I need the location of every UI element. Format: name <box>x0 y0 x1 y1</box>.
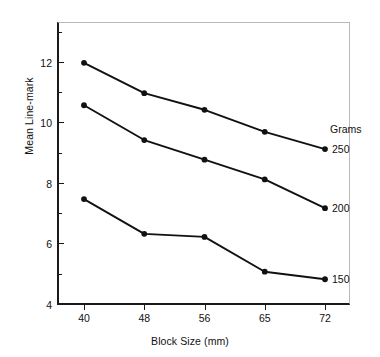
y-tick-minor <box>57 92 62 93</box>
y-tick-major <box>57 122 64 123</box>
legend-entry-250: 250 <box>332 144 350 155</box>
y-tick-major <box>57 62 64 63</box>
legend-title: Grams <box>330 124 362 135</box>
y-axis-title: Mean Line-mark <box>23 56 35 176</box>
y-tick-minor <box>57 213 62 214</box>
y-tick-label: 4 <box>26 300 52 311</box>
x-tick-label: 72 <box>305 313 345 324</box>
x-tick <box>84 303 85 310</box>
y-tick-label: 8 <box>26 179 52 190</box>
x-tick <box>265 303 266 310</box>
y-tick-minor <box>57 274 62 275</box>
x-tick <box>205 303 206 310</box>
line-chart-figure: 4681012 4048566572 Grams250200150 Block … <box>0 0 380 357</box>
x-tick-label: 65 <box>245 313 285 324</box>
legend-entry-150: 150 <box>332 274 350 285</box>
legend-entry-200: 200 <box>332 203 350 214</box>
y-tick-minor <box>57 153 62 154</box>
x-tick <box>144 303 145 310</box>
plot-area-frame <box>57 22 350 305</box>
y-tick-major <box>57 183 64 184</box>
x-tick-label: 48 <box>124 313 164 324</box>
y-tick-major <box>57 243 64 244</box>
x-tick-label: 40 <box>64 313 104 324</box>
y-tick-minor <box>57 32 62 33</box>
x-tick-label: 56 <box>185 313 225 324</box>
x-axis-title: Block Size (mm) <box>0 335 380 347</box>
y-tick-major <box>57 304 64 305</box>
y-tick-label: 6 <box>26 239 52 250</box>
x-tick <box>325 303 326 310</box>
